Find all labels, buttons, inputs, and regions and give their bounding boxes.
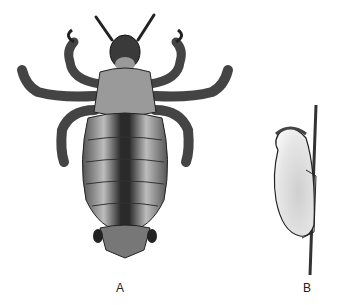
louse-panel-a [22, 15, 228, 258]
panel-b-label: B [303, 281, 311, 295]
nit-panel-b [274, 105, 316, 275]
panel-a-label: A [116, 281, 124, 295]
louse-illustration [0, 0, 339, 305]
illustration-figure: A B [0, 0, 339, 305]
